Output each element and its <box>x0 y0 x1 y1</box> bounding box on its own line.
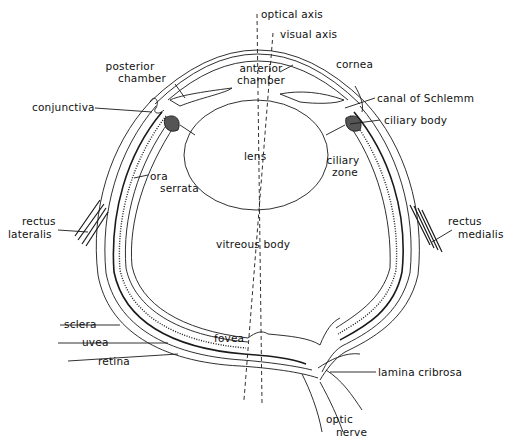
label-posterior-chamber-2: chamber <box>112 72 172 84</box>
label-anterior-chamber-2: chamber <box>236 74 286 86</box>
label-retina: retina <box>98 355 130 367</box>
label-rectus-lateralis-2: lateralis <box>8 228 52 240</box>
label-anterior-chamber-1: anterior <box>236 62 286 74</box>
label-rectus-medialis-2: medialis <box>458 228 504 240</box>
label-uvea: uvea <box>82 336 109 348</box>
label-optic-nerve-1: optic <box>326 413 353 425</box>
label-optic-nerve-2: nerve <box>336 426 367 438</box>
label-visual-axis: visual axis <box>280 28 337 40</box>
label-lamina-cribrosa: lamina cribrosa <box>378 366 462 378</box>
optic-nerve <box>302 374 322 432</box>
label-posterior-chamber-1: posterior <box>100 60 160 72</box>
label-ora-serrata-1: ora <box>150 170 168 182</box>
rectus-medialis <box>410 205 442 252</box>
label-cornea: cornea <box>336 58 373 70</box>
label-rectus-lateralis-1: rectus <box>22 215 56 227</box>
label-ciliary-body: ciliary body <box>384 114 447 126</box>
visual-axis-line <box>244 33 273 400</box>
label-lens: lens <box>244 150 266 162</box>
label-sclera: sclera <box>64 318 97 330</box>
label-ora-serrata-2: serrata <box>160 182 199 194</box>
label-ciliary-zone-1: ciliary <box>318 154 368 166</box>
label-ciliary-zone-2: zone <box>320 166 370 178</box>
label-fovea: fovea <box>214 332 244 344</box>
label-canal-of-schlemm: canal of Schlemm <box>377 92 474 104</box>
rectus-lateralis <box>75 200 108 246</box>
label-optical-axis: optical axis <box>261 8 323 20</box>
label-vitreous-body: vitreous body <box>216 238 290 250</box>
label-conjunctiva: conjunctiva <box>32 101 95 113</box>
label-rectus-medialis-1: rectus <box>448 215 482 227</box>
retina-inner <box>131 125 340 345</box>
